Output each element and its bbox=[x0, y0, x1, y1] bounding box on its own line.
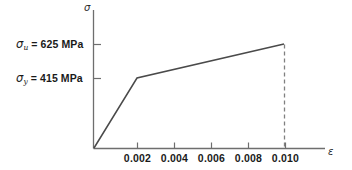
x-tick-label-0.002: 0.002 bbox=[124, 153, 151, 164]
yield-strength-label: σy = 415 MPa bbox=[16, 73, 83, 85]
x-axis-title: ε bbox=[328, 147, 333, 157]
ultimate-strength-label: σu = 625 MPa bbox=[16, 39, 83, 51]
ultimate-strength-value: = 625 MPa bbox=[28, 38, 83, 50]
yield-strength-value: = 415 MPa bbox=[28, 72, 83, 84]
y-axis-title: σ bbox=[84, 3, 90, 13]
x-tick-label-0.010: 0.010 bbox=[272, 153, 299, 164]
stress-strain-figure: σ ε σu = 625 MPa σy = 415 MPa 0.002 0.00… bbox=[0, 0, 352, 170]
x-tick-label-0.004: 0.004 bbox=[161, 153, 188, 164]
x-tick-label-0.006: 0.006 bbox=[198, 153, 225, 164]
x-tick-label-0.008: 0.008 bbox=[235, 153, 262, 164]
stress-strain-curve bbox=[94, 44, 284, 148]
